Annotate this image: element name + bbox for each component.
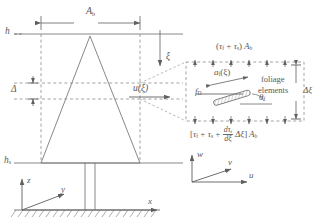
top-stress-arrows bbox=[195, 60, 285, 67]
figure-canvas: Ab h ξ Δ u(ξ) hs z y x w v u (τf + τs) A… bbox=[0, 0, 324, 221]
xi-axis-label: ξ bbox=[166, 52, 170, 62]
axis-label-x: x bbox=[148, 197, 152, 206]
crown-width-dimension bbox=[41, 16, 140, 30]
tree-trunk bbox=[85, 163, 95, 210]
element-area-label: af(ξ) bbox=[214, 68, 230, 78]
foliage-elements-label-line2: elements bbox=[258, 86, 288, 95]
diagram-vector-layer bbox=[0, 0, 324, 221]
axis-label-z: z bbox=[27, 176, 31, 185]
inset-thickness-dimension bbox=[291, 65, 301, 119]
foliage-element-shape bbox=[213, 90, 251, 106]
bottom-stress-equation: [τf + τs + dτfdξ Δξ] Ab bbox=[190, 126, 257, 143]
top-stress-equation: (τf + τs) Ab bbox=[216, 42, 252, 52]
spatial-axes-triad bbox=[22, 179, 157, 210]
canopy-height-label: h bbox=[5, 27, 10, 37]
drag-force-label: fD bbox=[195, 87, 202, 97]
velocity-profile-label: u(ξ) bbox=[133, 84, 148, 94]
layer-thickness-dimension bbox=[28, 76, 38, 106]
ground-surface bbox=[11, 210, 160, 217]
bottom-stress-arrows bbox=[195, 116, 285, 124]
crown-width-label: Ab bbox=[86, 6, 95, 17]
axis-label-y: y bbox=[61, 185, 65, 194]
layer-thickness-label: Δ bbox=[11, 85, 17, 95]
inset-thickness-label: Δξ bbox=[303, 86, 312, 95]
canopy-main-panel bbox=[11, 16, 186, 217]
foliage-elements-label-line1: foliage bbox=[261, 75, 285, 84]
axis-label-v: v bbox=[228, 158, 232, 167]
axis-label-w: w bbox=[197, 150, 203, 159]
trunk-space-height-label: hs bbox=[4, 156, 11, 166]
tree-crown-outline bbox=[41, 36, 140, 163]
velocity-axes-triad bbox=[192, 155, 247, 182]
element-area-dimension bbox=[211, 77, 248, 85]
axis-label-u: u bbox=[249, 171, 254, 180]
